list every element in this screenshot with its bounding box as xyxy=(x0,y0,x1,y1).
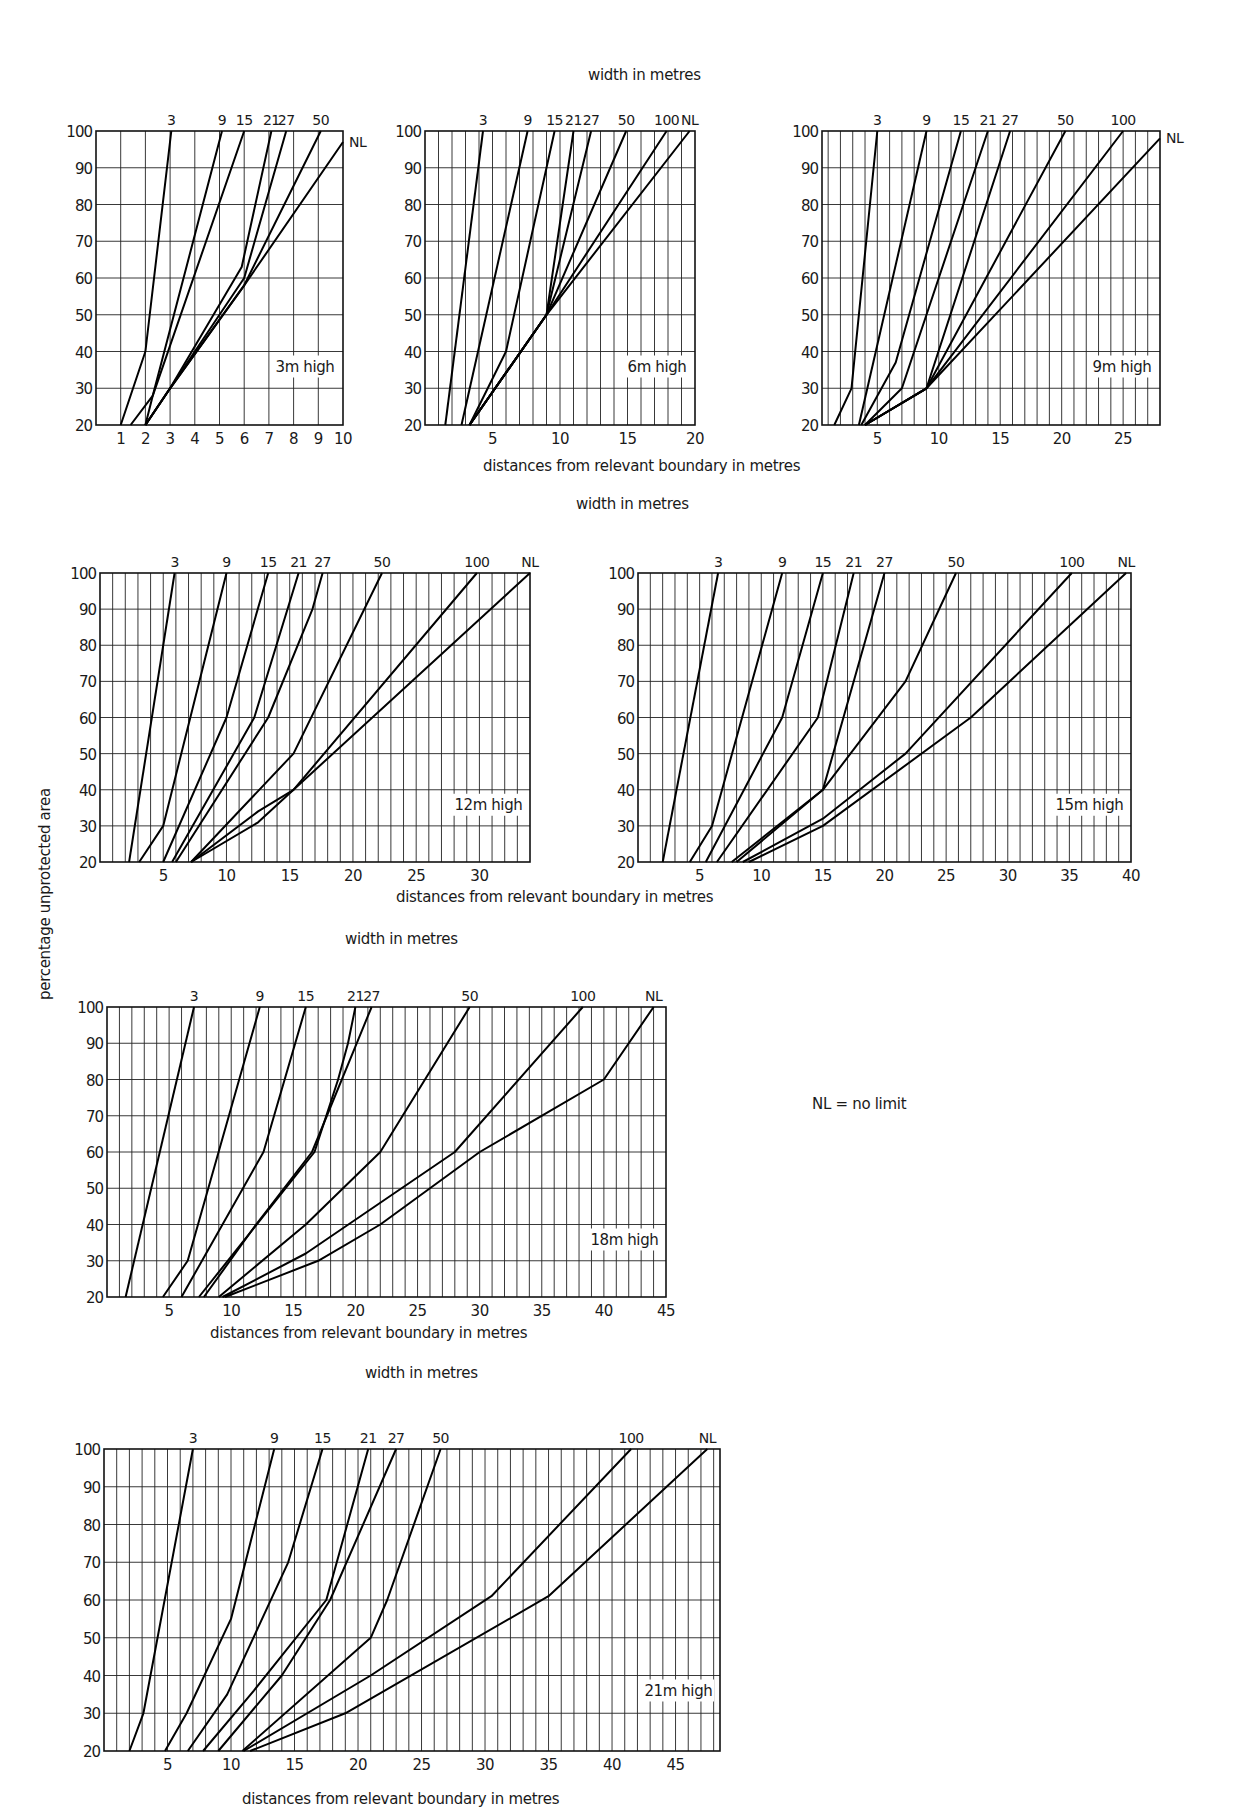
x-tick-label: 20 xyxy=(349,1756,367,1774)
svg-text:3m high: 3m high xyxy=(276,358,335,376)
x-tick-label: 40 xyxy=(595,1302,613,1320)
x-tick-label: 35 xyxy=(1060,867,1078,885)
x-tick-label: 15 xyxy=(284,1302,302,1320)
svg-text:18m high: 18m high xyxy=(590,1231,658,1249)
x-tick-label: 20 xyxy=(686,430,704,448)
y-tick-label: 20 xyxy=(86,1289,104,1307)
y-tick-label: 60 xyxy=(801,270,819,288)
series-label-27: 27 xyxy=(388,1430,405,1446)
y-tick-label: 70 xyxy=(75,233,93,251)
x-tick-label: 20 xyxy=(346,1302,364,1320)
width-caption-row3: width in metres xyxy=(345,930,458,948)
y-tick-label: 50 xyxy=(86,1180,104,1198)
x-tick-label: 35 xyxy=(533,1302,551,1320)
x-tick-label: 5 xyxy=(163,1756,172,1774)
x-tick-label: 4 xyxy=(190,430,199,448)
series-label-15: 15 xyxy=(236,112,253,128)
y-tick-label: 40 xyxy=(79,782,97,800)
x-tick-label: 35 xyxy=(539,1756,557,1774)
y-tick-label: 40 xyxy=(83,1668,101,1686)
series-label-21: 21 xyxy=(347,988,364,1004)
x-tick-label: 25 xyxy=(1114,430,1132,448)
series-label-15: 15 xyxy=(952,112,969,128)
svg-text:15m high: 15m high xyxy=(1055,796,1123,814)
y-tick-label: 30 xyxy=(404,380,422,398)
y-tick-label: 20 xyxy=(801,417,819,435)
series-label-9: 9 xyxy=(270,1430,278,1446)
x-tick-label: 45 xyxy=(657,1302,675,1320)
series-label-3: 3 xyxy=(479,112,487,128)
series-label-NL: NL xyxy=(1117,554,1135,570)
series-label-3: 3 xyxy=(167,112,175,128)
series-label-15: 15 xyxy=(260,554,277,570)
y-tick-label: 90 xyxy=(79,601,97,619)
series-label-27: 27 xyxy=(583,112,600,128)
series-label-NL: NL xyxy=(1166,130,1184,146)
series-label-21: 21 xyxy=(980,112,997,128)
height-label: 15m high xyxy=(1051,794,1125,816)
x-tick-label: 5 xyxy=(159,867,168,885)
y-tick-label: 100 xyxy=(395,123,421,141)
height-label: 18m high xyxy=(586,1229,660,1251)
series-label-3: 3 xyxy=(189,1430,197,1446)
x-tick-label: 45 xyxy=(666,1756,684,1774)
series-label-3: 3 xyxy=(714,554,722,570)
svg-text:6m high: 6m high xyxy=(628,358,687,376)
width-caption-row4: width in metres xyxy=(365,1364,478,1382)
series-label-50: 50 xyxy=(374,554,391,570)
y-tick-label: 30 xyxy=(801,380,819,398)
x-tick-label: 9 xyxy=(314,430,323,448)
x-tick-label: 5 xyxy=(695,867,704,885)
series-label-27: 27 xyxy=(314,554,331,570)
series-label-21: 21 xyxy=(845,554,862,570)
y-tick-label: 70 xyxy=(617,673,635,691)
x-tick-label: 8 xyxy=(289,430,298,448)
grid xyxy=(96,131,343,425)
y-tick-label: 20 xyxy=(617,854,635,872)
series-label-NL: NL xyxy=(699,1430,717,1446)
x-tick-label: 25 xyxy=(407,867,425,885)
svg-text:9m high: 9m high xyxy=(1093,358,1152,376)
y-tick-label: 80 xyxy=(83,1517,101,1535)
y-tick-label: 50 xyxy=(75,307,93,325)
series-label-50: 50 xyxy=(432,1430,449,1446)
y-tick-label: 40 xyxy=(86,1217,104,1235)
y-tick-label: 70 xyxy=(79,673,97,691)
x-tick-label: 15 xyxy=(618,430,636,448)
x-tick-label: 15 xyxy=(285,1756,303,1774)
y-tick-label: 90 xyxy=(404,160,422,178)
y-tick-label: 70 xyxy=(86,1108,104,1126)
y-tick-label: 60 xyxy=(83,1592,101,1610)
y-tick-label: 90 xyxy=(83,1479,101,1497)
y-tick-label: 50 xyxy=(617,746,635,764)
x-tick-label: 30 xyxy=(470,867,488,885)
series-label-21: 21 xyxy=(290,554,307,570)
height-label: 21m high xyxy=(640,1680,714,1702)
series-label-9: 9 xyxy=(778,554,786,570)
series-label-15: 15 xyxy=(297,988,314,1004)
y-tick-label: 40 xyxy=(75,344,93,362)
x-tick-label: 10 xyxy=(930,430,948,448)
chart-6m-high: 203040506070809010051015203915212750100N… xyxy=(385,91,735,465)
y-tick-label: 70 xyxy=(83,1554,101,1572)
y-tick-label: 80 xyxy=(79,637,97,655)
y-tick-label: 60 xyxy=(86,1144,104,1162)
series-label-27: 27 xyxy=(363,988,380,1004)
y-tick-label: 80 xyxy=(75,197,93,215)
series-label-27: 27 xyxy=(278,112,295,128)
distance-caption-row4: distances from relevant boundary in metr… xyxy=(242,1790,559,1808)
x-tick-label: 10 xyxy=(551,430,569,448)
x-tick-label: 25 xyxy=(937,867,955,885)
y-tick-label: 90 xyxy=(86,1035,104,1053)
grid xyxy=(104,1449,720,1751)
x-tick-label: 5 xyxy=(165,1302,174,1320)
series-label-NL: NL xyxy=(349,134,367,150)
y-tick-label: 60 xyxy=(75,270,93,288)
height-label: 12m high xyxy=(450,794,524,816)
series-label-NL: NL xyxy=(645,988,663,1004)
x-tick-label: 10 xyxy=(222,1302,240,1320)
svg-text:21m high: 21m high xyxy=(644,1682,712,1700)
series-label-9: 9 xyxy=(523,112,531,128)
grid xyxy=(107,1007,666,1297)
y-tick-label: 30 xyxy=(86,1253,104,1271)
